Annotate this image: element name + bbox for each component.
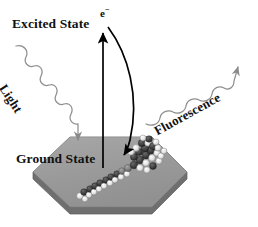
transition-arrow-layer (0, 0, 258, 227)
emission-arrow (108, 27, 134, 155)
figure-canvas: Excited State e− Ground State Light Fluo… (0, 0, 258, 227)
electron-label: e− (100, 6, 110, 19)
ground-state-label: Ground State (16, 152, 95, 166)
electron-charge-symbol: − (105, 5, 110, 14)
excited-state-label: Excited State (12, 17, 89, 31)
